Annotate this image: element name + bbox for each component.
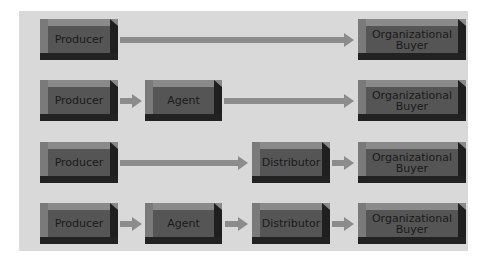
distributor-label: Distributor — [262, 218, 321, 229]
distributor-label: Distributor — [262, 157, 321, 168]
arrow-row2-a — [120, 94, 142, 108]
agent-label: Agent — [167, 218, 200, 229]
arrow-row4-c — [332, 217, 354, 231]
distributor-box-row3: Distributor — [252, 142, 330, 183]
producer-label: Producer — [55, 218, 104, 229]
producer-box-row1: Producer — [40, 19, 118, 60]
arrow-row3-a — [120, 156, 248, 170]
producer-label: Producer — [55, 95, 104, 106]
arrow-row2-b — [224, 94, 354, 108]
arrow-row4-b — [225, 217, 248, 231]
producer-box-row2: Producer — [40, 80, 118, 121]
buyer-label-line2: Buyer — [396, 100, 428, 113]
arrow-row3-b — [332, 156, 354, 170]
producer-box-row4: Producer — [40, 203, 118, 244]
organizational-buyer-box-row4: OrganizationalBuyer — [358, 203, 466, 244]
distributor-box-row4: Distributor — [252, 203, 330, 244]
producer-label: Producer — [55, 157, 104, 168]
buyer-label-line2: Buyer — [396, 39, 428, 52]
agent-label: Agent — [167, 95, 200, 106]
arrow-row1 — [120, 33, 354, 47]
organizational-buyer-box-row3: OrganizationalBuyer — [358, 142, 466, 183]
producer-label: Producer — [55, 34, 104, 45]
agent-box-row4: Agent — [145, 203, 222, 244]
arrow-row4-a — [120, 217, 142, 231]
buyer-label-line2: Buyer — [396, 223, 428, 236]
agent-box-row2: Agent — [145, 80, 222, 121]
buyer-label-line2: Buyer — [396, 162, 428, 175]
producer-box-row3: Producer — [40, 142, 118, 183]
organizational-buyer-box-row2: OrganizationalBuyer — [358, 80, 466, 121]
organizational-buyer-box-row1: OrganizationalBuyer — [358, 19, 466, 60]
